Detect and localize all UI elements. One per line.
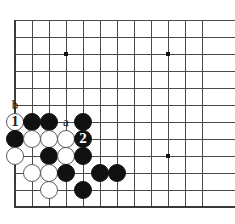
stone-label-2: 2 — [74, 130, 92, 148]
star-point — [166, 154, 170, 158]
go-diagram: 12 ba — [0, 0, 235, 224]
stone-label-1: 1 — [6, 113, 24, 131]
go-board-grid — [0, 0, 235, 224]
star-point — [166, 52, 170, 56]
point-label-a: a — [58, 113, 74, 129]
star-point — [64, 52, 68, 56]
point-label-b: b — [7, 96, 23, 112]
